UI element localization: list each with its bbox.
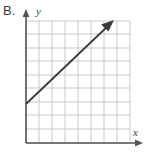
x-axis [26, 140, 143, 147]
grid-lines-vertical [26, 21, 130, 143]
coordinate-plot [0, 0, 149, 164]
answer-choice-figure: B. y x [0, 0, 149, 164]
y-axis [23, 9, 30, 143]
x-axis-arrowhead-icon [135, 140, 143, 147]
y-axis-arrowhead-icon [23, 9, 30, 17]
